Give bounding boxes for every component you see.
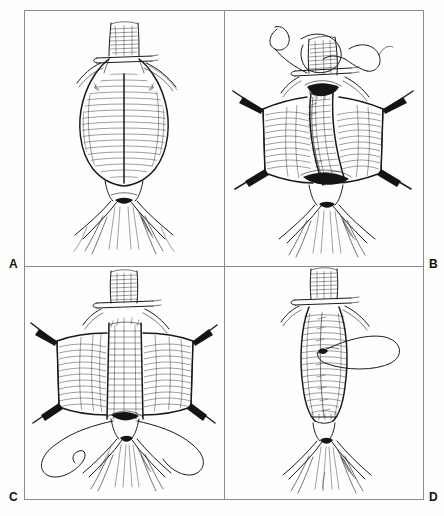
flap-right-shading: [144, 335, 191, 415]
panel-label-a: A: [9, 258, 18, 270]
aorta-hatching: [111, 272, 138, 303]
flap-right-shading: [337, 105, 381, 179]
renal-arteries: [83, 309, 169, 333]
aortic-bifurcation: [309, 185, 343, 208]
panel-a-aneurysm-exposed: [25, 11, 223, 265]
suture-loop-with-needle: [318, 336, 400, 369]
renal-arteries: [281, 306, 369, 330]
vascular-clamp-proximal: [94, 55, 158, 63]
distal-anastomosis: [107, 411, 143, 420]
aortic-bifurcation: [111, 419, 139, 442]
sac-closure-suture-line: [316, 313, 330, 417]
proximal-aorta: [110, 270, 138, 303]
proximal-suture-line: [109, 318, 142, 327]
aneurysm-sac-closed: [301, 307, 347, 423]
aneurysm-sac-flap-left: [263, 97, 313, 183]
suture-loops: [41, 421, 203, 477]
vascular-clamp-proximal: [291, 297, 359, 305]
suture-threads: [270, 26, 393, 73]
prosthetic-tube-graft: [107, 323, 143, 419]
flap-left-shading: [59, 334, 106, 415]
panel-d-sac-closed: [225, 267, 423, 499]
iliac-arteries: [74, 201, 174, 254]
figure-root: A B C D: [0, 0, 444, 516]
aortic-bifurcation: [313, 423, 335, 444]
aortic-bifurcation: [105, 181, 143, 204]
iliac-arteries: [279, 205, 375, 257]
panel-label-d: D: [429, 491, 438, 503]
panel-b-proximal-anastomosis: [225, 11, 423, 265]
panel-label-c: C: [9, 491, 18, 503]
vascular-clamp-proximal: [291, 67, 359, 76]
aorta-stump-hatching: [110, 25, 138, 56]
graft-crimp-ribs: [107, 324, 143, 419]
proximal-aorta: [310, 268, 338, 299]
vascular-clamp-proximal: [93, 300, 161, 308]
iliac-arteries: [283, 441, 371, 493]
panel-label-b: B: [429, 258, 438, 270]
iliac-arteries: [83, 439, 171, 491]
renal-arteries: [77, 63, 177, 91]
aorta-hatching: [311, 270, 338, 299]
flap-left-shading: [265, 105, 313, 179]
panel-c-graft-completed: [25, 267, 223, 499]
suprarenal-aorta: [109, 22, 139, 56]
